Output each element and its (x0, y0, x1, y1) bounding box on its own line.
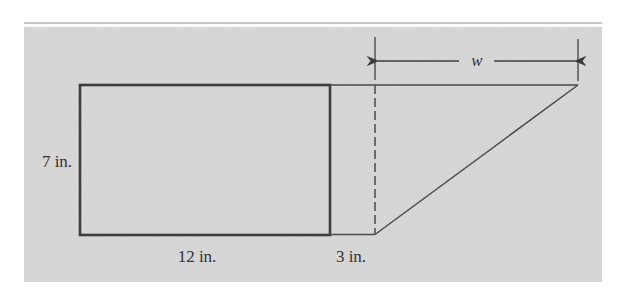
diagram: w 7 in. 12 in. 3 in. (0, 0, 626, 300)
label-gap-width: 3 in. (336, 247, 366, 266)
top-rule (24, 22, 602, 24)
label-rect-width: 12 in. (178, 247, 217, 266)
diagram-canvas: w 7 in. 12 in. 3 in. (0, 0, 626, 300)
label-height: 7 in. (42, 152, 72, 171)
label-w: w (471, 51, 483, 70)
panel-texture (24, 27, 602, 282)
